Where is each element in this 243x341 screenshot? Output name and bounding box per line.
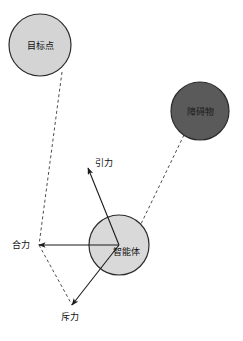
obstacle-label: 障碍物 [187, 106, 214, 117]
dashed-line-target-to-resultant [39, 72, 62, 245]
potential-field-diagram: 目标点 障碍物 智能体 引力 斥力 合力 [0, 0, 243, 341]
node-obstacle[interactable]: 障碍物 [171, 82, 229, 140]
target-label: 目标点 [27, 40, 54, 51]
agent-label: 智能体 [113, 246, 140, 257]
attraction-force-label: 引力 [95, 157, 113, 168]
repulsion-force-label: 斥力 [61, 311, 79, 322]
diagram-canvas: 目标点 障碍物 智能体 引力 斥力 合力 [0, 0, 243, 341]
dashed-line-obstacle-to-agent [140, 135, 184, 226]
dashed-line-parallelogram-side [39, 245, 72, 305]
node-target[interactable]: 目标点 [9, 14, 71, 76]
resultant-force-label: 合力 [12, 239, 30, 250]
